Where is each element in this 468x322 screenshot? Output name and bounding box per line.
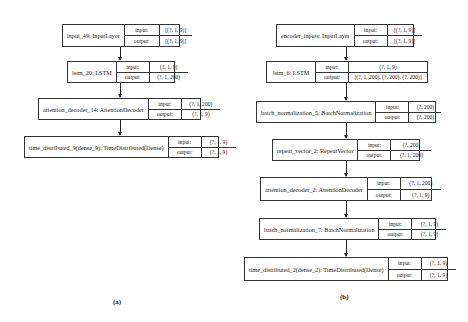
output-label: output: [355,36,388,46]
input-label: input: [389,258,422,269]
node-name: attention_decoder_14: AttentionDecoder [39,99,149,119]
output-label: output: [379,230,412,240]
node-io: input:(?, 200) output:(?, 1, 200) [358,140,431,160]
input-label: input: [368,178,401,189]
input-label: input: [358,140,391,150]
input-label: input: [376,102,409,112]
node-io: input:(?, 1, 9) output:(?, 1, 9) [169,137,236,157]
input-shape: (?, 1, 9) [349,62,427,72]
edge-arrow [346,123,347,138]
node-io: input:(?, 1, 200) output:(?, 1, 9) [149,99,220,119]
output-shape: [(?, 1, 9)] [388,36,422,46]
node-repeat-vector-b: repeat_vector_2: RepeatVector input:(?, … [272,139,420,161]
node-input-layer-a: input_49: InputLayer input:[(?, 1, 9)] o… [62,24,180,47]
edge-arrow [346,83,347,100]
edge-arrow [346,240,347,256]
output-label: output: [149,110,182,120]
node-name: repeat_vector_2: RepeatVector [273,140,358,160]
node-io: input:(?, 1, 9) output:(?, 1, 9) [389,258,456,280]
output-label: output: [316,73,349,83]
node-name: batch_normalization_5: BatchNormalizatio… [257,102,376,122]
node-batch-norm-7-b: batch_normalization_7: BatchNormalizatio… [259,218,436,240]
output-shape: [(?, 1, 9)] [160,36,192,46]
node-io: input:(?, 1, 9) output:(?, 1, 200) [117,62,188,82]
input-shape: (?, 1, 9) [422,258,456,269]
output-label: output: [368,190,401,201]
node-io: input:(?, 200) output:(?, 200) [376,102,441,122]
node-encoder-inputs-b: encoder_inputs: InputLayer input:[(?, 1,… [276,24,414,47]
input-shape: [(?, 1, 9)] [160,25,192,35]
node-name: batch_normalization_7: BatchNormalizatio… [260,219,379,239]
node-name: attention_decoder_2: AttentionDecoder [261,178,368,200]
input-shape: (?, 200) [391,140,431,150]
edge-arrow [120,83,121,97]
node-lstm-a: lstm_20: LSTM input:(?, 1, 9) output:(?,… [67,61,175,83]
output-shape: (?, 1, 200) [391,151,431,161]
output-shape: (?, 1, 200) [150,73,188,83]
output-shape: (?, 1, 9) [412,230,446,240]
edge-arrow [346,201,347,217]
node-attention-decoder-b: attention_decoder_2: AttentionDecoder in… [260,177,432,201]
node-time-distributed-b: time_distributed_2(dense_2): TimeDistrib… [244,257,448,281]
edge-arrow [120,120,121,135]
input-label: input: [125,25,160,35]
output-shape: (?, 1, 9) [401,190,441,201]
output-label: output: [358,151,391,161]
node-io: input:[(?, 1, 9)] output:[(?, 1, 9)] [355,25,422,46]
caption-a: (a) [113,298,121,306]
node-lstm-b: lstm_6: LSTM input:(?, 1, 9) output:[(?,… [266,61,428,83]
input-shape: (?, 1, 9) [150,62,188,72]
input-label: input: [355,25,388,35]
input-label: input: [149,99,182,109]
input-shape: (?, 1, 200) [182,99,220,109]
output-shape: (?, 1, 9) [182,110,220,120]
input-shape: (?, 200) [409,102,441,112]
node-name: input_49: InputLayer [63,25,125,46]
edge-arrow [120,47,121,60]
input-shape: [(?, 1, 9)] [388,25,422,35]
node-name: encoder_inputs: InputLayer [277,25,355,46]
node-name: lstm_20: LSTM [68,62,117,82]
input-label: input: [117,62,150,72]
input-shape: (?, 1, 9) [412,219,446,229]
node-name: time_distributed_9(dense_9): TimeDistrib… [25,137,169,157]
node-io: input:(?, 1, 9) output:(?, 1, 9) [379,219,446,239]
output-shape: (?, 1, 9) [422,270,456,281]
node-batch-norm-5-b: batch_normalization_5: BatchNormalizatio… [256,101,436,123]
output-label: output: [376,113,409,123]
node-attention-decoder-a: attention_decoder_14: AttentionDecoder i… [38,98,201,120]
caption-b: (b) [340,293,349,301]
node-time-distributed-a: time_distributed_9(dense_9): TimeDistrib… [24,136,219,158]
node-name: lstm_6: LSTM [267,62,316,82]
input-shape: (?, 1, 9) [202,137,236,147]
input-label: input: [169,137,202,147]
edge-arrow [346,47,347,60]
output-label: output: [169,148,202,158]
output-label: output: [117,73,150,83]
node-io: input:(?, 1, 200) output:(?, 1, 9) [368,178,441,200]
edge-arrow [346,161,347,176]
node-name: time_distributed_2(dense_2): TimeDistrib… [245,258,389,280]
output-shape: (?, 1, 9) [202,148,236,158]
input-label: input: [379,219,412,229]
output-label: output: [125,36,160,46]
input-shape: (?, 1, 200) [401,178,441,189]
input-label: input: [316,62,349,72]
output-shape: (?, 200) [409,113,441,123]
output-label: output: [389,270,422,281]
node-io: input:[(?, 1, 9)] output:[(?, 1, 9)] [125,25,192,46]
output-shape: [(?, 1, 200), (?, 200), (?, 200)] [349,73,427,83]
node-io: input:(?, 1, 9) output:[(?, 1, 200), (?,… [316,62,427,82]
